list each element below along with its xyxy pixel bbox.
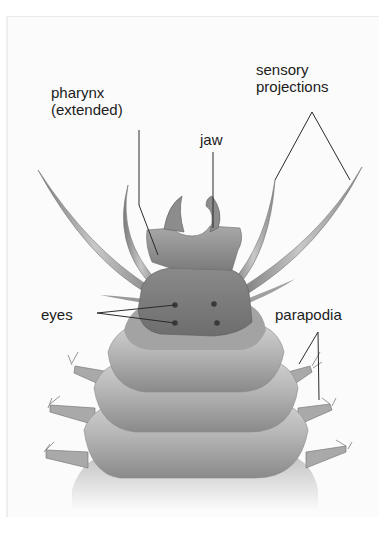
pharynx: [147, 226, 242, 270]
label-sensory-line1: sensory: [256, 61, 329, 78]
jaws: [164, 196, 220, 232]
label-parapodia: parapodia: [275, 306, 342, 323]
label-pharynx-line1: pharynx: [51, 84, 123, 101]
label-sensory-line2: projections: [256, 78, 329, 95]
parapodia-leader-2: [318, 332, 319, 400]
label-jaw: jaw: [200, 131, 223, 148]
head: [138, 268, 252, 336]
sensory-leader: [275, 112, 350, 180]
label-pharynx: pharynx (extended): [51, 84, 123, 118]
parapodia-leader: [299, 332, 318, 364]
label-pharynx-line2: (extended): [51, 101, 123, 118]
label-sensory-projections: sensory projections: [256, 61, 329, 95]
label-eyes: eyes: [41, 306, 73, 323]
